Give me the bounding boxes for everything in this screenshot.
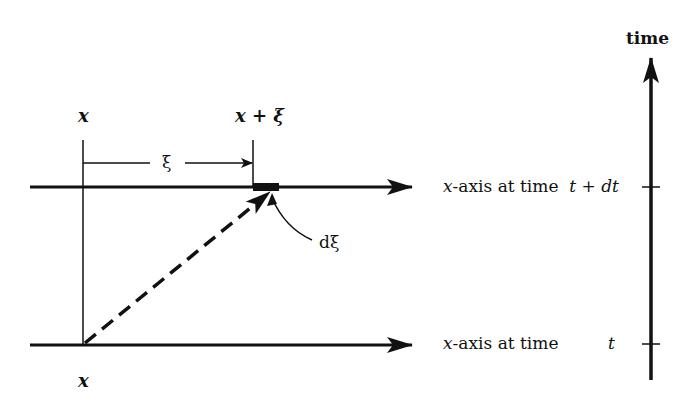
label-axis-bottom: x-axis at time <box>443 333 558 353</box>
label-x-top: x <box>78 105 89 126</box>
label-time-t: t <box>608 333 615 353</box>
label-dxi: dξ <box>319 232 339 252</box>
dxi-pointer <box>272 198 312 240</box>
diagram-lines <box>0 0 694 403</box>
diagram: x x + ξ ξ dξ x x-axis at time t + dt x-a… <box>0 0 694 403</box>
label-x-plus-xi: x + ξ <box>235 105 284 126</box>
label-time-axis: time <box>626 28 669 48</box>
label-x-bottom: x <box>78 370 89 391</box>
label-axis-top: x-axis at time t + dt <box>443 176 619 196</box>
label-xi: ξ <box>162 152 171 172</box>
dxi-segment <box>253 183 279 191</box>
trajectory-dashed-arrow <box>85 192 270 343</box>
